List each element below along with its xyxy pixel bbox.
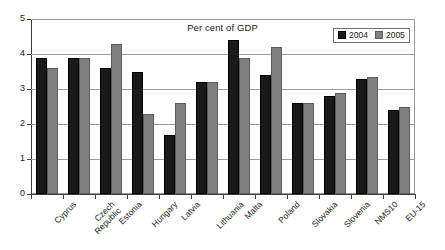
x-tick-mark-6 bbox=[223, 195, 224, 199]
x-tick-mark-8 bbox=[287, 195, 288, 199]
x-tick-mark-3 bbox=[127, 195, 128, 199]
bar-estonia-2004 bbox=[100, 68, 111, 194]
bar-slovakia-2005 bbox=[303, 103, 314, 194]
category-label-line1: Slovenia bbox=[342, 199, 372, 229]
bar-latvia-2004 bbox=[164, 135, 175, 195]
bar-nms10-2004 bbox=[356, 79, 367, 195]
x-tick-mark-0 bbox=[31, 195, 32, 199]
y-tick-label-0: 0 bbox=[5, 189, 25, 198]
y-tick-mark-1 bbox=[27, 159, 31, 160]
y-tick-label-5: 5 bbox=[5, 14, 25, 23]
bar-malta-2004 bbox=[228, 40, 239, 194]
bar-estonia-2005 bbox=[111, 44, 122, 195]
category-label-line1: Hungary bbox=[150, 199, 180, 229]
x-tick-mark-end bbox=[415, 195, 416, 199]
bar-lithuania-2005 bbox=[207, 82, 218, 194]
y-tick-label-3: 3 bbox=[5, 84, 25, 93]
legend-label-2005: 2005 bbox=[386, 31, 405, 40]
category-label-slovakia: Slovakia bbox=[310, 200, 339, 229]
chart-legend: 20042005 bbox=[333, 28, 410, 43]
y-tick-mark-5 bbox=[27, 19, 31, 20]
x-tick-mark-9 bbox=[319, 195, 320, 199]
category-label-lithuania: Lithuania bbox=[215, 200, 246, 231]
black-swatch bbox=[338, 31, 346, 39]
x-tick-mark-1 bbox=[63, 195, 64, 199]
bar-nms10-2005 bbox=[367, 77, 378, 194]
category-label-line1: Latvia bbox=[179, 199, 202, 222]
bar-cyprus-2005 bbox=[47, 68, 58, 194]
y-tick-label-1: 1 bbox=[5, 154, 25, 163]
y-axis-line bbox=[31, 19, 32, 195]
category-label-line1: Cyprus bbox=[52, 199, 78, 225]
bar-chart: Per cent of GDP 20042005 012345 CyprusCz… bbox=[0, 0, 445, 250]
bar-poland-2004 bbox=[260, 75, 271, 194]
bar-poland-2005 bbox=[271, 47, 282, 194]
x-tick-mark-7 bbox=[255, 195, 256, 199]
category-label-slovenia: Slovenia bbox=[343, 200, 373, 230]
gridline-y-4 bbox=[31, 54, 415, 55]
x-tick-mark-4 bbox=[159, 195, 160, 199]
bar-slovenia-2004 bbox=[324, 96, 335, 194]
legend-label-2004: 2004 bbox=[349, 31, 368, 40]
bar-malta-2005 bbox=[239, 58, 250, 195]
x-tick-mark-2 bbox=[95, 195, 96, 199]
category-label-eu-15: EU-15 bbox=[404, 200, 428, 224]
legend-entry-2004: 2004 bbox=[338, 31, 368, 40]
bar-eu-15-2004 bbox=[388, 110, 399, 194]
category-label-line1: Poland bbox=[276, 199, 302, 225]
bar-latvia-2005 bbox=[175, 103, 186, 194]
category-label-estonia: Estonia bbox=[117, 200, 144, 227]
bar-slovenia-2005 bbox=[335, 93, 346, 195]
bar-hungary-2004 bbox=[132, 72, 143, 195]
x-tick-mark-10 bbox=[351, 195, 352, 199]
bar-czech-republic-2005 bbox=[79, 58, 90, 195]
legend-entry-2005: 2005 bbox=[375, 31, 405, 40]
x-tick-mark-11 bbox=[383, 195, 384, 199]
y-tick-mark-3 bbox=[27, 89, 31, 90]
y-tick-label-2: 2 bbox=[5, 119, 25, 128]
x-tick-mark-5 bbox=[191, 195, 192, 199]
gray-swatch bbox=[375, 31, 383, 39]
category-label-cyprus: Cyprus bbox=[53, 200, 79, 226]
category-label-line1: Malta bbox=[242, 199, 264, 221]
y-tick-mark-4 bbox=[27, 54, 31, 55]
gridline-y-5 bbox=[31, 19, 415, 20]
bar-hungary-2005 bbox=[143, 114, 154, 195]
category-label-latvia: Latvia bbox=[180, 200, 203, 223]
bar-lithuania-2004 bbox=[196, 82, 207, 194]
category-label-line1: NMS10 bbox=[373, 199, 400, 226]
category-label-hungary: Hungary bbox=[150, 200, 179, 229]
category-label-line1: EU-15 bbox=[403, 199, 427, 223]
category-label-nms10: NMS10 bbox=[373, 200, 400, 227]
y-tick-mark-2 bbox=[27, 124, 31, 125]
category-label-poland: Poland bbox=[277, 200, 302, 225]
y-tick-label-4: 4 bbox=[5, 49, 25, 58]
bar-eu-15-2005 bbox=[399, 107, 410, 195]
category-label-line1: Slovakia bbox=[310, 199, 340, 229]
bar-cyprus-2004 bbox=[36, 58, 47, 195]
category-label-malta: Malta bbox=[243, 200, 264, 221]
category-label-line1: Lithuania bbox=[214, 199, 245, 230]
bar-slovakia-2004 bbox=[292, 103, 303, 194]
bar-czech-republic-2004 bbox=[68, 58, 79, 195]
